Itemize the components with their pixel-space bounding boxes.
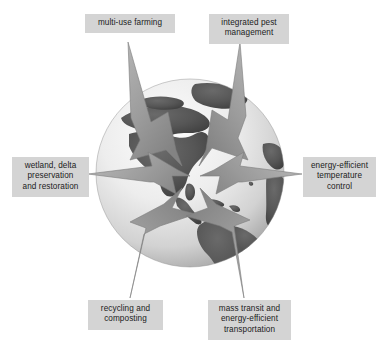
label-wetland-delta-preservation[interactable]: wetland, delta preservation and restorat… (12, 157, 89, 197)
sustainability-globe-figure: multi-use farming integrated pest manage… (0, 0, 380, 346)
figure-stage: multi-use farming integrated pest manage… (0, 0, 380, 346)
label-recycling-and-composting[interactable]: recycling and composting (88, 300, 163, 330)
label-mass-transit-transportation[interactable]: mass transit and energy-efficient transp… (208, 300, 291, 340)
label-energy-efficient-temperature-control[interactable]: energy-efficient temperature control (303, 157, 376, 197)
earth-globe-icon (95, 78, 285, 268)
globe-container (95, 78, 285, 268)
label-multi-use-farming[interactable]: multi-use farming (85, 14, 175, 33)
label-integrated-pest-management[interactable]: integrated pest management (209, 14, 289, 44)
